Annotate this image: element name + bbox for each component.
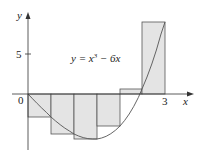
rect-5 xyxy=(120,89,142,94)
x-axis-label: x xyxy=(182,95,188,107)
riemann-rectangles xyxy=(28,22,165,139)
equation-prefix: y = x xyxy=(70,52,94,64)
function-equation: y = x3 − 6x xyxy=(70,52,121,64)
y-tick-label-5: 5 xyxy=(16,48,22,60)
equation-suffix: − 6x xyxy=(97,52,120,64)
rect-2 xyxy=(51,94,74,134)
origin-label: 0 xyxy=(18,94,24,106)
riemann-sum-diagram: y 5 0 3 x y = x3 − 6x xyxy=(0,0,202,157)
x-axis-arrow-icon xyxy=(187,92,194,97)
rect-3 xyxy=(74,94,97,139)
y-axis-label: y xyxy=(16,9,22,21)
rect-4 xyxy=(97,94,120,126)
y-axis-arrow-icon xyxy=(26,12,31,19)
x-tick-label-3: 3 xyxy=(162,95,168,107)
